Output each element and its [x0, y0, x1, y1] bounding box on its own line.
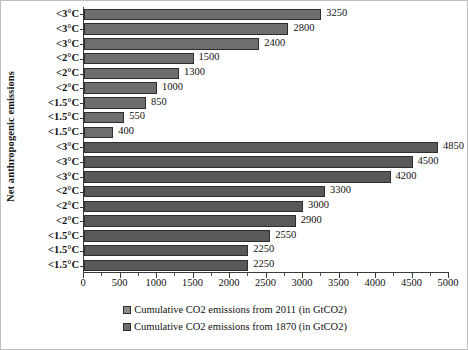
y-axis-tick — [80, 133, 83, 134]
x-axis-minor-tick — [320, 273, 321, 276]
bar-row: 4500 — [84, 155, 449, 170]
bar-row: 3000 — [84, 199, 449, 214]
bar — [84, 9, 321, 20]
x-axis-tick-label: 0 — [80, 277, 85, 288]
y-axis-category-label: <1.5°C — [48, 110, 79, 125]
legend-swatch-icon-1870 — [123, 323, 131, 331]
bar — [84, 38, 259, 49]
legend-label-1870: Cumulative CO2 emissions from 1870 (in G… — [134, 321, 347, 332]
y-axis-tick — [80, 88, 83, 89]
y-axis-category-label: <1.5°C — [48, 96, 79, 111]
bar-row: 3250 — [84, 7, 449, 22]
x-axis-tick-label: 5000 — [438, 277, 459, 288]
x-axis-minor-tick — [247, 273, 248, 276]
bar — [84, 97, 146, 108]
y-axis-tick — [80, 177, 83, 178]
x-axis-tick-label: 4000 — [365, 277, 386, 288]
bar — [84, 112, 124, 123]
legend-item-2011: Cumulative CO2 emissions from 2011 (in G… — [1, 301, 468, 318]
bar-value-label: 3250 — [326, 6, 347, 21]
bar-value-label: 2400 — [264, 36, 285, 51]
x-axis-minor-tick — [284, 273, 285, 276]
y-axis-category-labels: <3°C<3°C<3°C<2°C<2°C<2°C<1.5°C<1.5°C<1.5… — [19, 7, 82, 273]
y-axis-category-label: <3°C — [56, 170, 79, 185]
chart-legend: Cumulative CO2 emissions from 2011 (in G… — [1, 301, 468, 335]
bar — [84, 142, 438, 153]
y-axis-tick — [80, 207, 83, 208]
bar — [84, 82, 157, 93]
y-axis-tick — [80, 251, 83, 252]
y-axis-tick — [80, 266, 83, 267]
bar-row: 400 — [84, 125, 449, 140]
y-axis-tick — [80, 236, 83, 237]
y-axis-tick — [80, 192, 83, 193]
y-axis-category-label: <1.5°C — [48, 258, 79, 273]
y-axis-category-label: <2°C — [56, 214, 79, 229]
y-axis-title-text: Net anthropogenic emissions — [5, 71, 16, 202]
bar-row: 2250 — [84, 243, 449, 258]
y-axis-tick — [80, 14, 83, 15]
bar — [84, 53, 194, 64]
bar-value-label: 3300 — [330, 183, 351, 198]
y-axis-tick — [80, 29, 83, 30]
bar-value-label: 2550 — [275, 228, 296, 243]
y-axis-tick — [80, 221, 83, 222]
x-axis-minor-tick — [357, 273, 358, 276]
bar-row: 3300 — [84, 184, 449, 199]
plot-wrapper: <3°C<3°C<3°C<2°C<2°C<2°C<1.5°C<1.5°C<1.5… — [19, 7, 463, 289]
bar-value-label: 1500 — [199, 50, 220, 65]
bar — [84, 171, 391, 182]
plot-area: 3250280024001500130010008505504004850450… — [83, 7, 449, 273]
y-axis-category-label: <3°C — [56, 140, 79, 155]
bar-row: 1300 — [84, 66, 449, 81]
bar-value-label: 400 — [118, 124, 134, 139]
bar-row: 2800 — [84, 22, 449, 37]
legend-swatch-icon-2011 — [123, 306, 131, 314]
y-axis-title: Net anthropogenic emissions — [3, 1, 17, 271]
bar-row: 850 — [84, 96, 449, 111]
bar-value-label: 4850 — [443, 139, 464, 154]
x-axis-tick-label: 1500 — [182, 277, 203, 288]
y-axis-tick — [80, 59, 83, 60]
bar-row: 2400 — [84, 37, 449, 52]
bar — [84, 215, 296, 226]
y-axis-category-label: <3°C — [56, 7, 79, 22]
y-axis-tick — [80, 162, 83, 163]
y-axis-category-label: <1.5°C — [48, 229, 79, 244]
bar-value-label: 2250 — [253, 242, 274, 257]
y-axis-category-label: <2°C — [56, 184, 79, 199]
x-axis-tick-label: 1000 — [146, 277, 167, 288]
y-axis-tick — [80, 44, 83, 45]
x-axis-tick-label: 3000 — [292, 277, 313, 288]
bar-series-group: 3250280024001500130010008505504004850450… — [84, 7, 449, 273]
x-axis-tick-label: 4500 — [401, 277, 422, 288]
x-axis-tick-labels: 0500100015002000250030003500400045005000 — [83, 277, 449, 293]
y-axis-category-label: <2°C — [56, 51, 79, 66]
bar-value-label: 2900 — [301, 213, 322, 228]
y-axis-category-label: <1.5°C — [48, 125, 79, 140]
y-axis-category-label: <1.5°C — [48, 243, 79, 258]
bar-row: 2550 — [84, 229, 449, 244]
bar — [84, 260, 248, 271]
bar-value-label: 1000 — [162, 80, 183, 95]
x-axis-minor-tick — [138, 273, 139, 276]
bar-value-label: 2250 — [253, 257, 274, 272]
bar-value-label: 4500 — [418, 154, 439, 169]
bar-row: 4200 — [84, 170, 449, 185]
bar — [84, 245, 248, 256]
y-axis-tick — [80, 147, 83, 148]
bar-row: 4850 — [84, 140, 449, 155]
chart-container: Net anthropogenic emissions <3°C<3°C<3°C… — [0, 0, 468, 350]
x-axis-minor-tick — [430, 273, 431, 276]
legend-item-1870: Cumulative CO2 emissions from 1870 (in G… — [1, 318, 468, 335]
y-axis-category-label: <2°C — [56, 199, 79, 214]
bar-value-label: 3000 — [308, 198, 329, 213]
legend-label-2011: Cumulative CO2 emissions from 2011 (in G… — [134, 304, 347, 315]
bar-value-label: 850 — [151, 95, 167, 110]
y-axis-category-label: <3°C — [56, 22, 79, 37]
bar-value-label: 550 — [129, 109, 145, 124]
x-axis-tick-label: 2000 — [219, 277, 240, 288]
x-axis-tick-label: 2500 — [255, 277, 276, 288]
y-axis-tick — [80, 118, 83, 119]
y-axis-tick — [80, 103, 83, 104]
